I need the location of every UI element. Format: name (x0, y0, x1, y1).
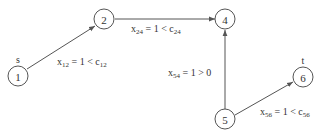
sink-label: t (302, 55, 305, 66)
node-2-label: 2 (101, 14, 107, 26)
edge-label-1-2: x12 = 1 < c12 (57, 56, 107, 69)
node-6: 6 t (293, 55, 313, 87)
node-2: 2 (94, 9, 114, 29)
node-6-label: 6 (300, 72, 306, 84)
edge-label-5-4: x54 = 1 > 0 (168, 67, 211, 80)
source-label: s (16, 54, 20, 65)
node-1: 1 s (8, 54, 28, 86)
node-1-label: 1 (15, 71, 21, 83)
node-4-label: 4 (222, 14, 228, 26)
node-5-label: 5 (222, 114, 228, 126)
flow-network-diagram: x12 = 1 < c12 x24 = 1 < c24 x54 = 1 > 0 … (0, 0, 321, 131)
node-4: 4 (215, 9, 235, 29)
edge-label-2-4: x24 = 1 < c24 (131, 23, 181, 36)
node-5: 5 (215, 109, 235, 129)
edge-label-5-6: x56 = 1 < c56 (260, 106, 310, 119)
